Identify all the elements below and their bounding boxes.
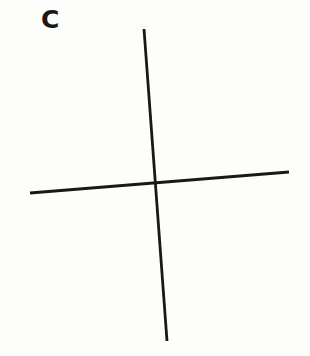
line-drawing-canvas — [0, 0, 310, 356]
figure-panel: C — [0, 0, 310, 356]
vertical-line-stroke — [144, 29, 167, 341]
horizontal-line-stroke — [30, 172, 289, 193]
panel-label: C — [41, 7, 60, 32]
